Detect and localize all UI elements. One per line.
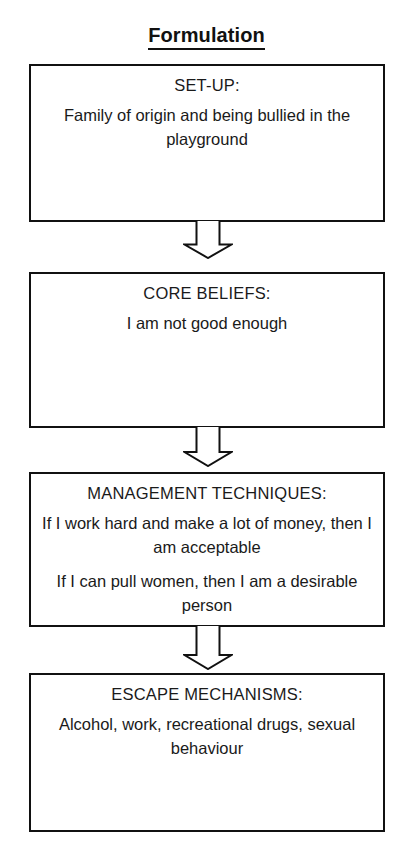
flow-node-core-beliefs: CORE BELIEFS: I am not good enough	[29, 272, 385, 428]
down-block-arrow-icon	[183, 221, 233, 259]
flow-node-management-techniques: MANAGEMENT TECHNIQUES: If I work hard an…	[29, 472, 385, 627]
flow-node-set-up: SET-UP: Family of origin and being bulli…	[29, 64, 385, 222]
flow-node-heading: ESCAPE MECHANISMS:	[41, 683, 373, 706]
flow-node-heading: MANAGEMENT TECHNIQUES:	[41, 482, 373, 505]
page-title-text: Formulation	[148, 23, 265, 50]
flow-node-body: Alcohol, work, recreational drugs, sexua…	[41, 713, 373, 760]
flow-node-body: Family of origin and being bullied in th…	[41, 104, 373, 151]
flow-node-body: If I can pull women, then I am a desirab…	[41, 570, 373, 617]
flow-node-heading: CORE BELIEFS:	[41, 282, 373, 305]
flow-node-heading: SET-UP:	[41, 74, 373, 97]
page-title: Formulation	[0, 23, 413, 50]
formulation-flowchart: Formulation SET-UP: Family of origin and…	[0, 0, 413, 868]
down-block-arrow-icon	[183, 427, 233, 467]
flow-node-body: If I work hard and make a lot of money, …	[41, 512, 373, 559]
down-block-arrow-icon	[183, 626, 233, 670]
flow-node-escape-mechanisms: ESCAPE MECHANISMS: Alcohol, work, recrea…	[29, 673, 385, 832]
flow-node-body: I am not good enough	[41, 312, 373, 336]
